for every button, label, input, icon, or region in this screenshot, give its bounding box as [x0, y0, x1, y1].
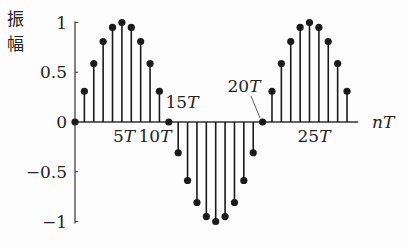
stem-point [231, 122, 238, 206]
stem-point [137, 38, 144, 122]
y-tick-label: −0.5 [26, 162, 67, 182]
stem-point [184, 122, 191, 184]
stem-point [203, 122, 210, 220]
stem-point [90, 60, 97, 122]
stem-point [165, 118, 172, 125]
label-leader-line [251, 96, 260, 118]
stem-point [71, 118, 78, 125]
stem-point [146, 60, 153, 122]
stem-point [268, 88, 275, 122]
x-tick-label: 5T [113, 126, 137, 146]
y-axis-label: 振 幅 [7, 9, 24, 54]
stem-point [221, 122, 228, 220]
stem-point [315, 24, 322, 122]
y-axis-label-char2: 幅 [7, 34, 24, 54]
x-axis-label: nT [372, 112, 396, 132]
stem-chart: 振 幅 10.50−0.5−1 5T10T15T20T25TnT [0, 0, 407, 248]
stem-point [325, 38, 332, 122]
x-tick-label: 15T [166, 92, 201, 112]
stem-point [297, 24, 304, 122]
tick-labels: 5T10T15T20T25TnT [113, 76, 396, 146]
stem-point [128, 24, 135, 122]
x-tick-label: 20T [228, 76, 263, 96]
stem-point [109, 24, 116, 122]
stem-point [118, 19, 125, 122]
x-tick-label: 25T [298, 126, 333, 146]
stem-point [287, 38, 294, 122]
stem-point [81, 88, 88, 122]
stem-point [175, 122, 182, 156]
stem-point [306, 19, 313, 122]
y-tick-label: 0.5 [40, 62, 67, 82]
stem-point [156, 88, 163, 122]
stem-point [240, 122, 247, 184]
y-tick-label: 0 [56, 112, 67, 132]
stem-point [250, 122, 257, 156]
stem-point [343, 88, 350, 122]
y-tick-label: 1 [56, 13, 67, 33]
stem-point [334, 60, 341, 122]
x-tick-label: 10T [139, 126, 174, 146]
y-axis-label-char1: 振 [7, 9, 24, 29]
stem-point [259, 118, 266, 125]
stem-point [212, 122, 219, 225]
stem-point [278, 60, 285, 122]
y-tick-label: −1 [42, 212, 67, 232]
stem-point [100, 38, 107, 122]
stem-point [193, 122, 200, 206]
